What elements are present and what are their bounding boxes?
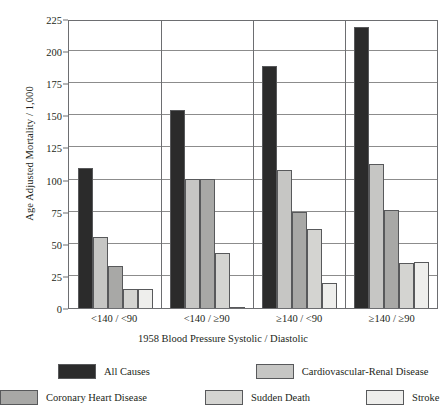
y-tick-label: 25 [52,271,63,282]
y-tick-mark [63,116,68,117]
legend-swatch [366,390,404,405]
y-tick-mark [63,309,68,310]
y-tick-label: 225 [46,15,62,26]
y-tick-label: 0 [57,304,62,315]
bar [354,27,369,308]
bar [414,262,429,308]
y-tick-mark [63,180,68,181]
y-tick-mark [63,212,68,213]
y-tick-mark [63,20,68,21]
legend-item[interactable]: Coronary Heart Disease [0,390,147,405]
bar [93,237,108,308]
y-tick-label: 125 [46,143,62,154]
y-tick-mark [63,84,68,85]
legend-label: Coronary Heart Disease [46,392,147,403]
legend-row-2: Coronary Heart DiseaseSudden DeathStroke [0,384,446,410]
y-tick-label: 50 [52,239,63,250]
bar-chart: Age Adjusted Mortality / 1,000 025507510… [0,0,446,415]
bar [108,266,123,308]
legend-swatch [256,364,294,379]
y-tick-mark [63,244,68,245]
bar-groups [69,21,437,308]
bar-group [161,21,253,308]
legend-item[interactable]: Sudden Death [205,390,310,405]
legend-label: Stroke [412,392,439,403]
bar [138,289,153,308]
x-axis-label: ≥140 / ≥90 [346,313,439,324]
bar [277,170,292,308]
y-tick-label: 75 [52,207,63,218]
bar [322,283,337,309]
legend-swatch [0,390,38,405]
bar [292,212,307,308]
y-tick-mark [63,276,68,277]
x-axis-label: <140 / ≥90 [161,313,254,324]
bar-group [69,21,161,308]
legend-row-1: All CausesCardiovascular-Renal Disease [0,358,446,384]
y-tick-label: 200 [46,47,62,58]
legend-item[interactable]: All Causes [58,364,150,379]
bar [230,307,245,308]
legend-swatch [205,390,243,405]
y-axis-title: Age Adjusted Mortality / 1,000 [24,39,35,269]
bar [307,229,322,308]
bar [369,164,384,308]
bar [200,179,215,308]
legend: All CausesCardiovascular-Renal Disease C… [0,358,446,410]
bar [262,66,277,308]
legend-item[interactable]: Stroke [366,390,439,405]
bar [123,289,138,308]
x-axis-label: ≥140 / <90 [253,313,346,324]
y-tick-label: 175 [46,79,62,90]
y-tick-mark [63,52,68,53]
plot-wrapper: 0255075100125150175200225 [68,20,438,309]
bar [399,263,414,308]
x-axis-title: 1958 Blood Pressure Systolic / Diastolic [0,333,446,344]
plot-area [68,20,438,309]
bar [384,210,399,308]
bar [215,253,230,308]
x-axis-label: <140 / <90 [68,313,161,324]
legend-label: All Causes [104,366,150,377]
x-axis-labels: <140 / <90<140 / ≥90≥140 / <90≥140 / ≥90 [68,313,438,324]
bar [185,179,200,308]
y-tick-mark [63,148,68,149]
legend-label: Sudden Death [251,392,310,403]
bar-group [253,21,345,308]
y-tick-label: 100 [46,175,62,186]
legend-item[interactable]: Cardiovascular-Renal Disease [256,364,429,379]
bar [78,168,93,308]
legend-swatch [58,364,96,379]
y-tick-label: 150 [46,111,62,122]
legend-label: Cardiovascular-Renal Disease [302,366,429,377]
bar-group [345,21,437,308]
bar [170,110,185,308]
